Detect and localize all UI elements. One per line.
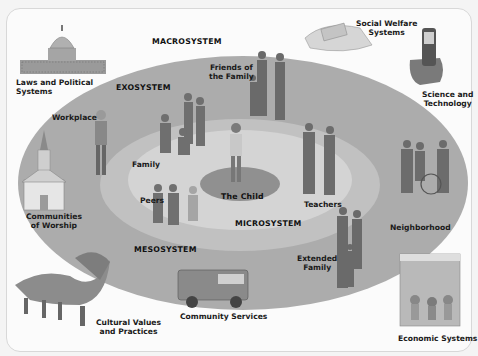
capitol-building-icon — [20, 25, 106, 74]
shop-icon — [400, 254, 460, 326]
laws-political-label: Laws and Political Systems — [16, 78, 93, 96]
family-label: Family — [132, 160, 160, 169]
workplace-label: Workplace — [52, 113, 97, 122]
ecological-rings — [0, 0, 478, 356]
science-technology-label: Science and Technology — [422, 90, 473, 108]
neighborhood-label: Neighborhood — [390, 223, 451, 232]
friends-of-family-label: Friends of the Family — [209, 63, 254, 81]
extended-family-label: Extended Family — [297, 254, 337, 272]
community-services-label: Community Services — [180, 312, 267, 321]
communities-worship-label: Communities of Worship — [26, 212, 82, 230]
social-welfare-label: Social Welfare Systems — [356, 19, 417, 37]
mesosystem-label: MESOSYSTEM — [134, 245, 197, 254]
microsystem-label: MICROSYSTEM — [235, 219, 302, 228]
exosystem-label: EXOSYSTEM — [116, 83, 171, 92]
cultural-values-label: Cultural Values and Practices — [96, 318, 161, 336]
macrosystem-label: MACROSYSTEM — [152, 37, 222, 46]
peers-label: Peers — [140, 196, 164, 205]
the-child-label: The Child — [221, 192, 264, 201]
economic-systems-label: Economic Systems — [398, 334, 477, 343]
dragon-dance-icon — [15, 252, 110, 326]
teachers-label: Teachers — [304, 200, 342, 209]
